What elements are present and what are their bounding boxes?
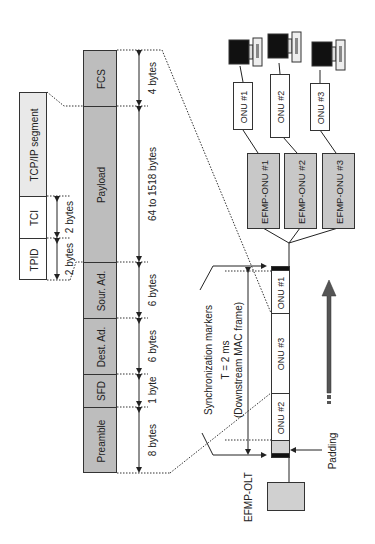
computer-icon xyxy=(264,30,304,64)
size-label-preamble: 8 bytes xyxy=(147,424,158,456)
slot-label: ONU #3 xyxy=(276,338,286,371)
onu-label: ONU #1 xyxy=(239,91,249,124)
size-label-source-address: 6 bytes xyxy=(147,274,158,306)
slot-onu-3: ONU #3 xyxy=(271,313,290,394)
field-label: Dest. Ad. xyxy=(96,327,107,368)
field-label: TCI xyxy=(29,210,40,226)
tcpip-segment-box: TCP/IP segment xyxy=(19,92,47,197)
size-label-fcs: 4 bytes xyxy=(147,62,158,94)
size-label-tpid: 2 bytes xyxy=(64,243,75,275)
computer-icon xyxy=(225,36,265,68)
efmp-onu-2: EFMP-ONU #2 xyxy=(284,153,317,229)
field-label: Payload xyxy=(96,167,107,203)
field-label: Sour. Ad. xyxy=(96,271,107,312)
field-tci: TCI xyxy=(19,196,47,239)
onu-2: ONU #2 xyxy=(270,74,290,138)
downstream-direction-arrow-icon xyxy=(322,280,336,404)
slot-label: ONU #2 xyxy=(276,402,286,435)
field-label: Preamble xyxy=(96,420,107,463)
efmp-onu-3: EFMP-ONU #3 xyxy=(322,153,355,229)
frame-label: (Downstream MAC frame) xyxy=(233,302,244,418)
efmp-onu-1: EFMP-ONU #1 xyxy=(247,153,280,229)
field-source-address: Sour. Ad. xyxy=(83,262,117,319)
size-label-payload: 64 to 1518 bytes xyxy=(147,147,158,221)
field-sfd: SFD xyxy=(83,374,117,408)
efmp-onu-label: EFMP-ONU #2 xyxy=(296,160,307,224)
onu-1: ONU #1 xyxy=(233,82,253,130)
field-label: TPID xyxy=(29,249,40,272)
field-tpid: TPID xyxy=(19,238,47,280)
sync-markers-label: Synchronization markers xyxy=(203,305,214,415)
field-dest-address: Dest. Ad. xyxy=(83,318,117,375)
efmp-onu-label: EFMP-ONU #3 xyxy=(334,160,345,224)
onu-label: ONU #3 xyxy=(316,92,326,125)
slot-onu-2: ONU #2 xyxy=(271,393,290,441)
olt-label: EFMP-OLT xyxy=(243,472,254,522)
size-label-tci: 2 bytes xyxy=(64,201,75,233)
efmp-olt-box xyxy=(267,482,305,511)
padding-block xyxy=(271,440,290,454)
size-label-sfd: 1 byte xyxy=(147,376,158,403)
field-label: SFD xyxy=(96,381,107,401)
slot-onu-1: ONU #1 xyxy=(271,270,290,314)
computer-icon xyxy=(308,38,348,72)
field-payload: Payload xyxy=(83,106,117,263)
efmp-onu-label: EFMP-ONU #1 xyxy=(259,160,270,224)
field-fcs: FCS xyxy=(83,50,117,107)
field-label: FCS xyxy=(96,69,107,89)
onu-3: ONU #3 xyxy=(310,83,330,131)
size-label-dest-address: 6 bytes xyxy=(147,330,158,362)
connector-lines xyxy=(0,0,375,544)
sync-marker-bottom xyxy=(271,453,290,458)
field-preamble: Preamble xyxy=(83,407,117,473)
onu-label: ONU #2 xyxy=(276,91,286,124)
slot-label: ONU #1 xyxy=(276,277,286,310)
padding-label: Padding xyxy=(327,433,338,470)
segment-label: TCP/IP segment xyxy=(29,108,40,181)
period-label: T = 2 ms xyxy=(220,341,231,380)
